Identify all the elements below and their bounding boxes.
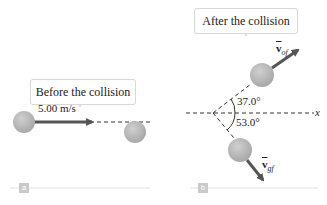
callout-after-text: After the collision (202, 14, 289, 28)
callout-before-text: Before the collision (36, 85, 131, 99)
vector-subscript: of (282, 48, 288, 57)
ball-incoming (13, 111, 35, 133)
angle-upper-label: 37.0° (237, 95, 261, 107)
ball-o-after (250, 63, 274, 87)
x-axis-label: x (315, 106, 320, 118)
angle-lower-label: 53.0° (236, 116, 260, 128)
panel-tag-b: b (198, 183, 208, 193)
ball-target (124, 121, 146, 143)
callout-after: After the collision (194, 8, 298, 34)
ball-g-after (228, 138, 252, 162)
velocity-label: 5.00 m/s (38, 102, 76, 114)
angle-arc-upper (231, 99, 235, 113)
angle-arc-lower (227, 113, 235, 130)
vector-vof-label: vof (276, 42, 288, 57)
panel-b (186, 32, 318, 188)
vector-vgf-label: vgf (262, 158, 274, 173)
panel-tag-a: a (19, 183, 29, 193)
vector-subscript: gf (268, 164, 274, 173)
vector-vgf-arrow (247, 160, 263, 180)
panel-a (10, 103, 150, 188)
